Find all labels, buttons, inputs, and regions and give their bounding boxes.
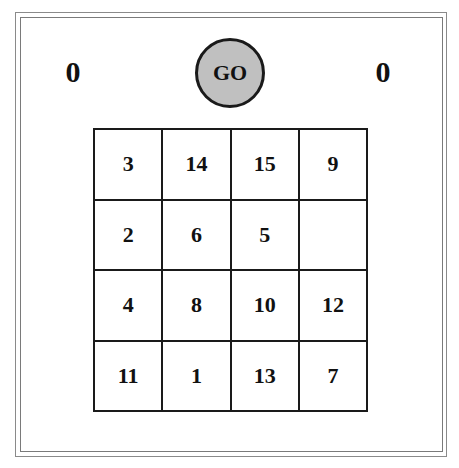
tile-r3-c3[interactable]: 7: [299, 341, 367, 412]
tile-r0-c2[interactable]: 15: [231, 129, 299, 200]
tile-r2-c1[interactable]: 8: [162, 270, 230, 341]
tile-r2-c2[interactable]: 10: [231, 270, 299, 341]
tile-r2-c0[interactable]: 4: [94, 270, 162, 341]
tile-r1-c2[interactable]: 5: [231, 200, 299, 271]
tile-r0-c1[interactable]: 14: [162, 129, 230, 200]
tile-r0-c3[interactable]: 9: [299, 129, 367, 200]
puzzle-board: 3 14 15 9 2 6 5 4 8 10 12 11 1 13 7: [93, 128, 368, 412]
tile-r3-c1[interactable]: 1: [162, 341, 230, 412]
tile-r3-c2[interactable]: 13: [231, 341, 299, 412]
tile-r3-c0[interactable]: 11: [94, 341, 162, 412]
tile-r1-c1[interactable]: 6: [162, 200, 230, 271]
tile-r0-c0[interactable]: 3: [94, 129, 162, 200]
left-score: 0: [53, 52, 93, 92]
right-score: 0: [363, 52, 403, 92]
tile-r1-c0[interactable]: 2: [94, 200, 162, 271]
empty-tile-r1-c3[interactable]: [299, 200, 367, 271]
tile-r2-c3[interactable]: 12: [299, 270, 367, 341]
go-button[interactable]: GO: [195, 38, 265, 108]
